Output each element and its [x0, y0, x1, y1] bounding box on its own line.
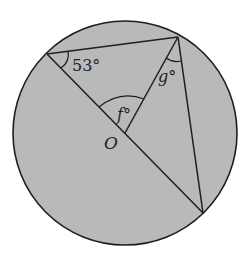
angle-label-f: f°: [116, 105, 131, 124]
center-label-o: O: [104, 133, 118, 153]
circle-diagram: 53° f° g° O: [0, 0, 240, 253]
angle-label-g: g°: [158, 67, 176, 86]
angle-label-53: 53°: [72, 56, 100, 75]
